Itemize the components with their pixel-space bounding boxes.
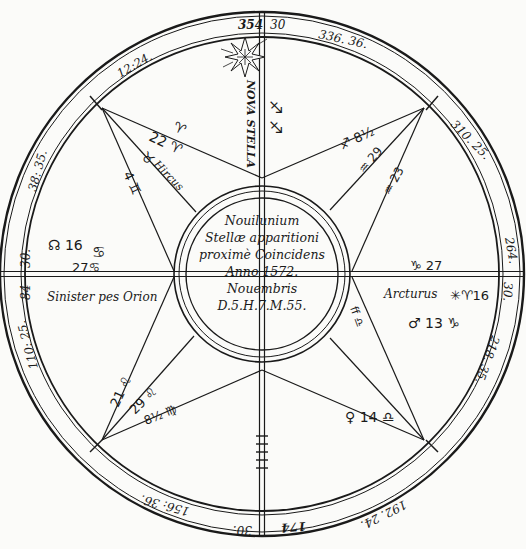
ring-label-30-top: 30 bbox=[270, 18, 286, 32]
inscription-line-5: Nouembris bbox=[182, 280, 342, 297]
top-axis-symbol-2: ♐ bbox=[266, 120, 285, 134]
ring-label-84: 84 bbox=[19, 285, 33, 300]
ring-label-30-left: 30. bbox=[19, 249, 33, 268]
ring-label-bottom-left: 156: 36. bbox=[139, 492, 191, 518]
ring-tick bbox=[426, 440, 438, 452]
lower-right-planets: ff ♎ bbox=[347, 305, 366, 329]
right-star-aries-16: ✳♈16 bbox=[450, 288, 489, 303]
inscription-line-2: Stellæ apparitioni bbox=[182, 229, 342, 246]
center-inscription: Nouilunium Stellæ apparitioni proximè Co… bbox=[182, 212, 342, 314]
left-node-16: ☊ 16 bbox=[48, 237, 83, 253]
right-mars: ♂ 13 ♑ bbox=[408, 315, 460, 331]
ring-label-left-lower: 110: 25. bbox=[14, 319, 40, 371]
upper-left-aries-2: ♈ bbox=[171, 118, 190, 138]
upper-right-aquarius: ♒ 29 bbox=[356, 144, 386, 176]
bottom-axis-glyphs bbox=[256, 436, 268, 468]
upper-right-aquarius-2: ♒ 23 bbox=[380, 164, 406, 197]
ring-label-30-bottom: 30. bbox=[233, 523, 252, 537]
ring-label-354: 354 bbox=[238, 18, 263, 32]
nova-stella-label: NOVA STELLA bbox=[244, 79, 257, 168]
ring-label-30-right: 30. bbox=[500, 282, 515, 302]
ring-label-174: 174 bbox=[281, 519, 307, 535]
lower-right-venus-libra: ♀ 14 ♎ bbox=[345, 409, 395, 425]
left-cancer: ♋ bbox=[92, 243, 105, 261]
left-cancer-27: 27♋ bbox=[72, 260, 100, 275]
inscription-line-6: D.5.H.7.M.55. bbox=[182, 297, 342, 314]
hircus-label: Hircus bbox=[150, 157, 186, 193]
arcturus-label: Arcturus bbox=[383, 287, 437, 301]
orion-label: Sinister pes Orion bbox=[47, 290, 157, 304]
inscription-line-3: proximè Coincidens bbox=[182, 246, 342, 263]
inscription-line-1: Nouilunium bbox=[182, 212, 342, 229]
inscription-line-4: Anno 1572. bbox=[182, 263, 342, 280]
upper-left-gemini: 4 ♊ bbox=[120, 169, 144, 197]
right-capricorn-27: ♑ 27 bbox=[410, 258, 442, 273]
top-axis-symbol: ♐ bbox=[266, 100, 285, 114]
